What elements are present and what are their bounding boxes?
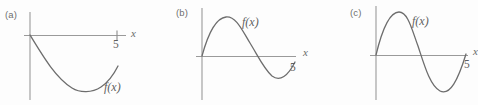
x-tick-label-5: 5 (113, 38, 119, 50)
panel-c: (c) x 5 f(x) (320, 0, 478, 105)
panel-b: (b) x 5 f(x) (160, 0, 320, 105)
panel-label-a: (a) (5, 9, 17, 20)
curve-label-fx: f(x) (104, 80, 121, 95)
x-axis-label: x (131, 27, 136, 39)
curve-label-fx: f(x) (242, 15, 259, 30)
panel-a-plot (0, 0, 160, 105)
x-axis-label: x (473, 45, 478, 57)
figure-root: (a) x 5 f(x) (b) x 5 f(x) (c) (0, 0, 478, 105)
panel-c-plot (320, 0, 478, 105)
x-tick-label-5: 5 (464, 58, 470, 70)
panel-label-b: (b) (176, 7, 188, 18)
panel-label-c: (c) (350, 7, 362, 18)
panel-a: (a) x 5 f(x) (0, 0, 160, 105)
x-tick-label-5: 5 (290, 61, 296, 73)
x-axis-label: x (303, 46, 308, 58)
curve-label-fx: f(x) (412, 14, 429, 29)
